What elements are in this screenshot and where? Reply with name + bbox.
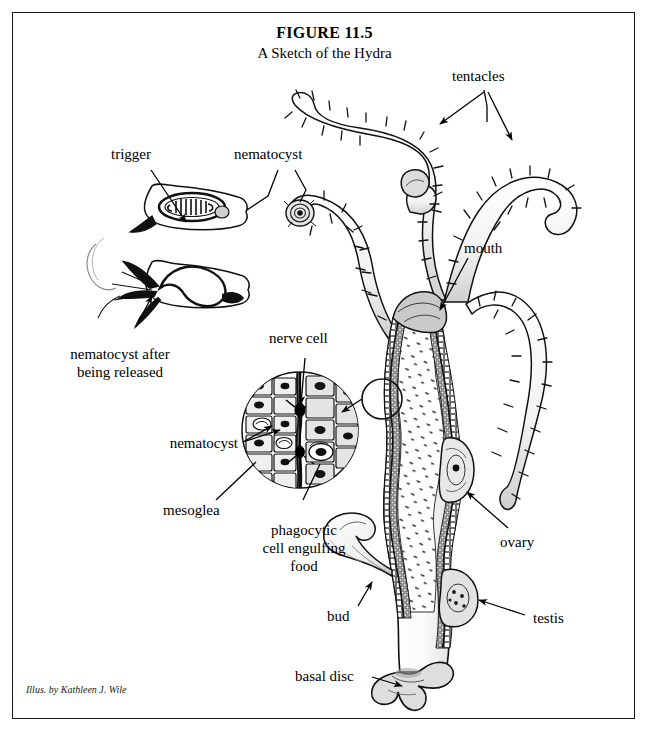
label-ovary: ovary xyxy=(500,534,534,551)
label-phagocytic-line3: food xyxy=(236,558,372,575)
figure-title: FIGURE 11.5 xyxy=(0,24,649,42)
label-basal-disc: basal disc xyxy=(295,668,354,685)
label-phagocytic-line2: cell engulfing xyxy=(236,540,372,557)
label-mesoglea: mesoglea xyxy=(163,502,220,519)
illustration-credit: Illus. by Kathleen J. Wile xyxy=(26,684,127,695)
label-nerve-cell: nerve cell xyxy=(269,330,328,347)
label-nematocyst-released-line2: being released xyxy=(32,364,208,381)
label-nematocyst-top: nematocyst xyxy=(234,146,302,163)
figure-page: FIGURE 11.5 A Sketch of the Hydra xyxy=(0,0,649,733)
label-trigger: trigger xyxy=(111,146,151,163)
label-nematocyst-released-line1: nematocyst after xyxy=(32,346,208,363)
figure-subtitle: A Sketch of the Hydra xyxy=(0,45,649,62)
label-tentacles: tentacles xyxy=(452,68,504,85)
label-nematocyst-cell: nematocyst xyxy=(123,435,238,452)
label-bud: bud xyxy=(327,608,350,625)
label-mouth: mouth xyxy=(464,240,502,257)
label-testis: testis xyxy=(533,610,564,627)
label-phagocytic-line1: phagocytic xyxy=(236,522,372,539)
